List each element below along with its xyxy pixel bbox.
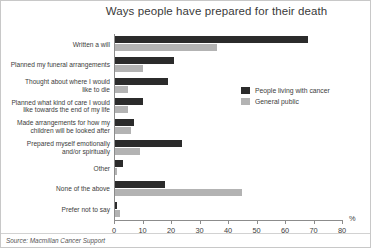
bar-public (114, 148, 140, 155)
source-caption: Source: Macmillan Cancer Support (6, 237, 105, 244)
category-label-line: and/or spiritually (0, 148, 110, 156)
x-axis-tick (228, 220, 229, 224)
x-axis-tick (114, 220, 115, 224)
x-axis-tick (285, 220, 286, 224)
category-label-line: Prepared myself emotionally (0, 140, 110, 148)
bar-cancer (114, 140, 182, 147)
category-label-line: Planned my funeral arrangements (0, 61, 110, 69)
category-label: Made arrangements for how mychildren wil… (0, 119, 110, 134)
category-label-line: children will be looked after (0, 127, 110, 135)
category-label: Other (0, 165, 110, 173)
chart-figure: Ways people have prepared for their deat… (0, 0, 371, 248)
bar-cancer (114, 119, 134, 126)
x-axis-tick (200, 220, 201, 224)
bar-public (114, 44, 217, 51)
bar-cancer (114, 98, 143, 105)
x-axis-tick-label: 40 (213, 226, 243, 235)
bar-group: None of the above (114, 181, 342, 197)
x-axis-tick-label: 60 (270, 226, 300, 235)
category-label: Prepared myself emotionallyand/or spirit… (0, 140, 110, 155)
x-axis-tick (143, 220, 144, 224)
bar-public (114, 127, 131, 134)
chart-title: Ways people have prepared for their deat… (1, 5, 371, 17)
bar-cancer (114, 36, 308, 43)
legend-label: General public (255, 98, 299, 105)
category-label: None of the above (0, 185, 110, 193)
chart-legend: People living with cancerGeneral public (241, 87, 330, 109)
bar-group: Made arrangements for how mychildren wil… (114, 119, 342, 135)
bar-group: Written a will (114, 36, 342, 52)
bar-cancer (114, 57, 174, 64)
bar-group: Other (114, 160, 342, 176)
x-axis-tick-label: 0 (99, 226, 129, 235)
category-label-line: Prefer not to say (0, 206, 110, 214)
x-axis-tick (171, 220, 172, 224)
category-label-line: like towards the end of my life (0, 106, 110, 114)
legend-label: People living with cancer (255, 87, 330, 94)
legend-item: General public (241, 98, 330, 105)
bar-group: Planned my funeral arrangements (114, 57, 342, 73)
bar-public (114, 86, 128, 93)
legend-swatch (241, 98, 250, 105)
category-label-line: Planned what kind of care I would (0, 99, 110, 107)
category-label: Prefer not to say (0, 206, 110, 214)
category-label-line: Thought about where I would (0, 78, 110, 86)
x-axis-unit-label: % (349, 214, 356, 223)
legend-swatch (241, 87, 250, 94)
bar-public (114, 65, 143, 72)
x-axis-tick-label: 20 (156, 226, 186, 235)
category-label: Thought about where I wouldlike to die (0, 78, 110, 93)
x-axis-tick-label: 50 (242, 226, 272, 235)
x-axis-tick-label: 80 (327, 226, 357, 235)
bar-cancer (114, 78, 168, 85)
bar-public (114, 189, 242, 196)
bar-group: Prepared myself emotionallyand/or spirit… (114, 140, 342, 156)
bar-group: Prefer not to say (114, 202, 342, 218)
legend-item: People living with cancer (241, 87, 330, 94)
category-label: Written a will (0, 41, 110, 49)
category-label-line: None of the above (0, 185, 110, 193)
bar-cancer (114, 160, 123, 167)
bar-cancer (114, 181, 165, 188)
y-axis-line (114, 34, 115, 220)
x-axis-tick-label: 30 (185, 226, 215, 235)
category-label-line: Made arrangements for how my (0, 119, 110, 127)
x-axis-tick-label: 70 (299, 226, 329, 235)
category-label-line: like to die (0, 86, 110, 94)
category-label: Planned what kind of care I wouldlike to… (0, 99, 110, 114)
bar-public (114, 106, 128, 113)
x-axis-tick (257, 220, 258, 224)
category-label-line: Written a will (0, 41, 110, 49)
x-axis-tick (342, 220, 343, 224)
plot-area: Written a willPlanned my funeral arrange… (114, 34, 342, 220)
x-axis-tick (314, 220, 315, 224)
category-label: Planned my funeral arrangements (0, 61, 110, 69)
x-axis-tick-label: 10 (128, 226, 158, 235)
category-label-line: Other (0, 165, 110, 173)
